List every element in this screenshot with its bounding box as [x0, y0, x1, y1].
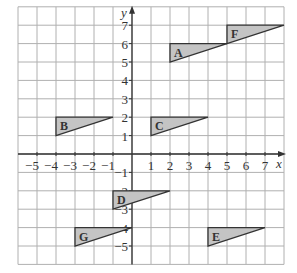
y-tick-label: 4: [122, 73, 129, 88]
x-tick-label: 1: [148, 158, 155, 173]
y-tick-label: 6: [122, 37, 129, 52]
x-tick-label: −3: [63, 158, 77, 173]
y-tick-label: 7: [122, 18, 129, 33]
x-tick-label: −4: [44, 158, 58, 173]
y-tick-label: 3: [122, 92, 129, 107]
y-tick-label: −1: [114, 165, 128, 180]
x-tick-label: 7: [262, 158, 269, 173]
y-tick-label: 5: [122, 55, 129, 70]
x-tick-label: −1: [101, 158, 115, 173]
triangle-label-c: C: [155, 119, 164, 133]
x-tick-label: 4: [205, 158, 212, 173]
y-tick-label: 2: [122, 110, 129, 125]
x-tick-label: 6: [243, 158, 250, 173]
x-tick-label: −2: [82, 158, 96, 173]
y-tick-label: 1: [122, 129, 129, 144]
x-tick-label: 3: [186, 158, 193, 173]
triangle-label-e: E: [212, 230, 220, 244]
grid-svg: xy−5−4−3−2−112345677654321−1−2−3−4−5AFBC…: [0, 0, 297, 273]
triangle-label-g: G: [79, 230, 88, 244]
triangle-label-d: D: [117, 193, 126, 207]
x-tick-label: −5: [25, 158, 39, 173]
triangle-label-b: B: [60, 119, 68, 133]
x-axis-label: x: [275, 156, 282, 171]
x-tick-label: 2: [167, 158, 174, 173]
x-tick-label: 5: [224, 158, 231, 173]
coordinate-grid-diagram: xy−5−4−3−2−112345677654321−1−2−3−4−5AFBC…: [0, 0, 297, 273]
y-tick-label: −5: [114, 239, 128, 254]
triangle-label-a: A: [174, 46, 183, 60]
triangle-label-f: F: [231, 27, 238, 41]
